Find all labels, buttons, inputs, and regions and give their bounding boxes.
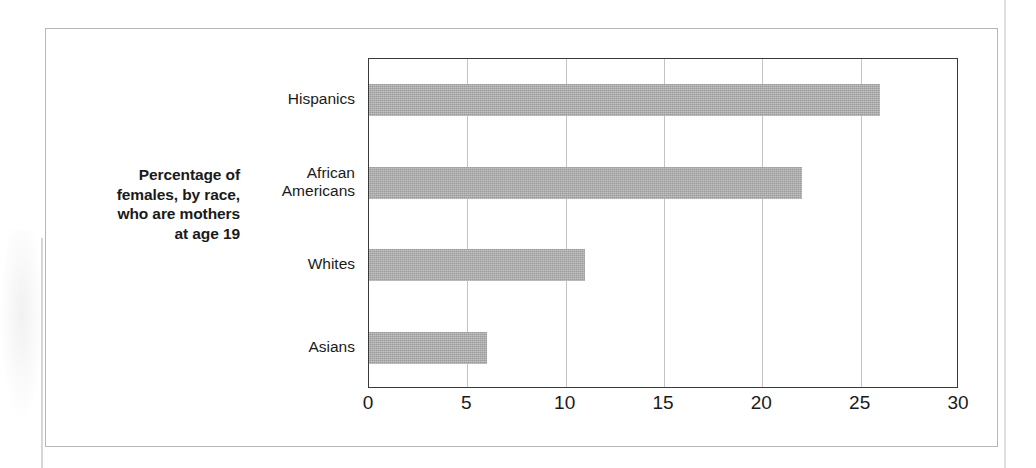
x-tick-label: 5 — [461, 392, 472, 414]
category-label-african-americans: AfricanAmericans — [200, 164, 355, 200]
x-tick-label: 15 — [652, 392, 673, 414]
category-label-asians: Asians — [200, 338, 355, 356]
x-tick-label: 10 — [554, 392, 575, 414]
x-tick-label: 30 — [947, 392, 968, 414]
category-axis-labels: HispanicsAfricanAmericansWhitesAsians — [200, 58, 355, 388]
x-tick-label: 25 — [849, 392, 870, 414]
plot-area — [368, 58, 958, 388]
page-edge-line-left — [41, 238, 43, 468]
bar-whites — [369, 249, 585, 281]
bar-asians — [369, 332, 487, 364]
category-label-hispanics: Hispanics — [200, 90, 355, 108]
scan-smudge-artifact — [0, 230, 40, 420]
category-label-whites: Whites — [200, 255, 355, 273]
bar-african-americans — [369, 167, 802, 199]
x-tick-label: 20 — [751, 392, 772, 414]
x-tick-label: 0 — [363, 392, 374, 414]
x-axis-tick-labels: 051015202530 — [368, 392, 958, 422]
bar-hispanics — [369, 84, 880, 116]
page-edge-line-right — [1004, 0, 1006, 468]
